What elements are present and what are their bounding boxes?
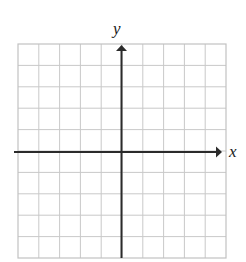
coordinate-plane-figure: y x	[0, 0, 246, 262]
coordinate-grid-svg	[0, 0, 246, 262]
x-axis-label: x	[229, 143, 237, 160]
y-axis-label: y	[113, 20, 121, 37]
